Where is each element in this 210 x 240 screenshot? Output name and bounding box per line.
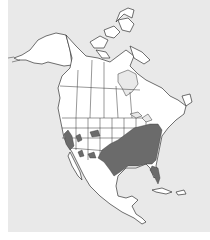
alaska: [14, 33, 72, 66]
baffin-island: [130, 46, 150, 64]
range-map: [0, 0, 210, 240]
north-america-mainland: [58, 35, 186, 224]
hispaniola: [176, 190, 186, 195]
cuba: [152, 188, 172, 194]
florida: [150, 166, 160, 184]
